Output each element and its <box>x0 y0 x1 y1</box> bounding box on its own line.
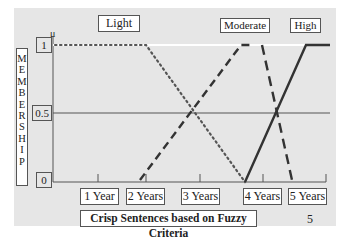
xtick-4-years: 4 Years <box>243 188 282 205</box>
xtick-2-years: 2 Years <box>126 188 165 205</box>
y-axis-title: M E M B E R S H I P <box>16 48 28 186</box>
ytick-05: 0.5 <box>32 105 52 121</box>
ytick-1: 1 <box>36 37 52 53</box>
xtick-1-year: 1 Year <box>80 188 119 205</box>
xtick-5-years: 5 Years <box>288 188 327 205</box>
ytick-0: 0 <box>36 172 52 188</box>
legend-light: Light <box>98 15 140 32</box>
legend-moderate: Moderate <box>220 18 270 33</box>
page-number: 5 <box>307 212 313 227</box>
legend-high: High <box>290 18 321 33</box>
x-axis-title: Crisp Sentences based on Fuzzy Criteria <box>80 210 257 227</box>
xtick-3-years: 3 Years <box>181 188 220 205</box>
